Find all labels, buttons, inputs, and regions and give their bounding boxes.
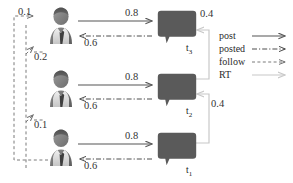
weight-posted-top: 0.6 bbox=[84, 38, 97, 49]
tweet-label-t3-sub: 3 bbox=[189, 48, 193, 56]
weight-rt-upper: 0.4 bbox=[200, 9, 213, 20]
user-avatar-bottom bbox=[46, 128, 76, 166]
weight-rt-lower: 0.4 bbox=[211, 99, 224, 110]
weight-posted-bottom: 0.6 bbox=[84, 161, 97, 172]
weight-follow-middle: 0.2 bbox=[34, 52, 47, 63]
tweet-label-t1: t1 bbox=[186, 166, 192, 178]
tweet-bubble-t3 bbox=[157, 10, 197, 44]
edges-layer bbox=[0, 0, 293, 183]
weight-post-top: 0.8 bbox=[125, 8, 138, 19]
tweet-label-t1-sub: 1 bbox=[189, 170, 193, 178]
tweet-label-t3: t3 bbox=[186, 44, 192, 56]
user-avatar-top bbox=[46, 6, 76, 44]
legend-label-post: post bbox=[219, 31, 236, 41]
weight-post-middle: 0.8 bbox=[125, 72, 138, 83]
posted-edges bbox=[80, 36, 152, 159]
network-diagram: 0.1 0.2 0.1 0.8 0.8 0.8 0.6 0.6 0.6 0.4 … bbox=[0, 0, 293, 183]
tweet-label-t2-sub: 2 bbox=[189, 111, 193, 119]
weight-follow-bottom: 0.1 bbox=[34, 120, 47, 131]
tweet-bubble-t2 bbox=[157, 73, 197, 107]
follow-edges bbox=[14, 16, 48, 168]
tweet-bubble-t1 bbox=[157, 132, 197, 166]
tweet-label-t2: t2 bbox=[186, 107, 192, 119]
weight-posted-middle: 0.6 bbox=[84, 101, 97, 112]
legend-label-rt: RT bbox=[219, 70, 231, 80]
user-avatar-middle bbox=[46, 69, 76, 107]
weight-follow-top: 0.1 bbox=[18, 7, 31, 18]
legend-label-follow: follow bbox=[219, 57, 245, 67]
legend-label-posted: posted bbox=[219, 44, 245, 54]
legend-arrows bbox=[252, 36, 285, 75]
weight-post-bottom: 0.8 bbox=[125, 131, 138, 142]
